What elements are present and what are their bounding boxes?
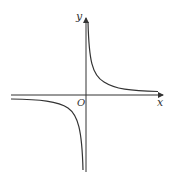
y-axis-label: y xyxy=(76,11,82,22)
hyperbola-branch-quadrant-1 xyxy=(88,22,158,92)
origin-label: O xyxy=(77,98,85,108)
graph-canvas xyxy=(0,0,175,185)
x-axis-label: x xyxy=(157,97,163,108)
hyperbola-diagram: y x O xyxy=(0,0,175,185)
hyperbola-branch-quadrant-3 xyxy=(11,99,83,170)
